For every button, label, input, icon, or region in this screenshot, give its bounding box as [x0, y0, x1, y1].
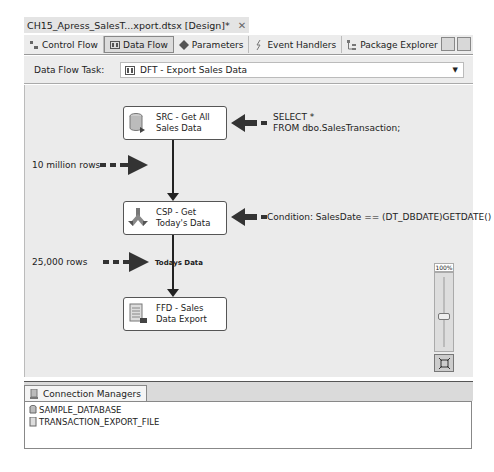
control-flow-icon — [29, 40, 39, 50]
data-flow-task-select[interactable]: DFT - Export Sales Data ▼ — [120, 62, 464, 78]
path-src-to-csp[interactable] — [172, 140, 174, 196]
connection-item-transaction-export-file[interactable]: TRANSACTION_EXPORT_FILE — [29, 416, 467, 428]
toolbox-button[interactable] — [441, 37, 455, 51]
data-flow-icon — [125, 66, 135, 75]
zoom-slider[interactable] — [434, 272, 454, 352]
node-csp-get-todays-data[interactable]: CSP - Get Today's Data — [123, 201, 227, 235]
rows-in-annotation: 10 million rows — [32, 160, 100, 170]
node-ffd-sales-data-export[interactable]: FFD - Sales Data Export — [123, 297, 227, 331]
variables-button[interactable] — [457, 37, 471, 51]
document-title: CH15_Apress_SalesT...xport.dtsx [Design]… — [27, 20, 230, 31]
annotation-arrow-right-icon — [103, 252, 149, 272]
document-tab[interactable]: CH15_Apress_SalesT...xport.dtsx [Design]… — [24, 17, 249, 33]
database-connection-icon — [29, 405, 37, 415]
node-src-get-all-sales-data[interactable]: SRC - Get All Sales Data — [123, 106, 227, 140]
zoom-control: 100% — [434, 263, 454, 372]
connection-manager-icon — [30, 389, 38, 399]
tab-parameters[interactable]: Parameters — [174, 36, 250, 53]
data-flow-canvas[interactable]: SRC - Get All Sales Data CSP - Get Today… — [24, 85, 473, 377]
annotation-arrow-left-icon — [231, 114, 269, 132]
path-arrowhead-icon — [167, 289, 179, 297]
path-arrowhead-icon — [167, 193, 179, 201]
tab-control-flow[interactable]: Control Flow — [24, 36, 104, 53]
annotation-arrow-right-icon — [100, 155, 148, 175]
parameters-icon — [179, 40, 189, 50]
zoom-slider-thumb[interactable] — [438, 313, 450, 320]
tab-connection-managers[interactable]: Connection Managers — [24, 385, 147, 401]
rows-out-annotation: 25,000 rows — [32, 257, 87, 267]
condition-annotation: Condition: SalesDate == (DT_DBDATE)GETDA… — [267, 212, 491, 222]
data-flow-task-bar: Data Flow Task: DFT - Export Sales Data … — [24, 56, 473, 84]
tab-data-flow[interactable]: Data Flow — [104, 36, 174, 53]
flat-file-connection-icon — [29, 417, 37, 427]
connection-item-sample-database[interactable]: SAMPLE_DATABASE — [29, 404, 467, 416]
package-explorer-icon — [347, 40, 357, 50]
flat-file-destination-icon — [128, 303, 148, 325]
fit-icon — [439, 358, 450, 369]
annotation-arrow-left-icon — [231, 208, 269, 226]
zoom-level: 100% — [434, 263, 454, 272]
designer-tabs: Control Flow Data Flow Parameters Event … — [24, 35, 473, 55]
data-flow-icon — [110, 40, 120, 50]
event-handlers-icon — [254, 40, 264, 50]
dropdown-arrow-icon[interactable]: ▼ — [453, 66, 458, 74]
connection-managers-panel: SAMPLE_DATABASE TRANSACTION_EXPORT_FILE — [24, 401, 472, 449]
close-icon[interactable]: ✕ — [238, 20, 246, 31]
conditional-split-icon — [128, 207, 148, 229]
tab-event-handlers[interactable]: Event Handlers — [249, 36, 342, 53]
tab-package-explorer[interactable]: Package Explorer — [342, 36, 443, 53]
sql-annotation: SELECT * FROM dbo.SalesTransaction; — [273, 112, 400, 134]
path-label: Todays Data — [155, 259, 203, 267]
database-source-icon — [128, 112, 148, 134]
zoom-to-fit-button[interactable] — [434, 354, 454, 372]
data-flow-task-label: Data Flow Task: — [34, 65, 104, 75]
